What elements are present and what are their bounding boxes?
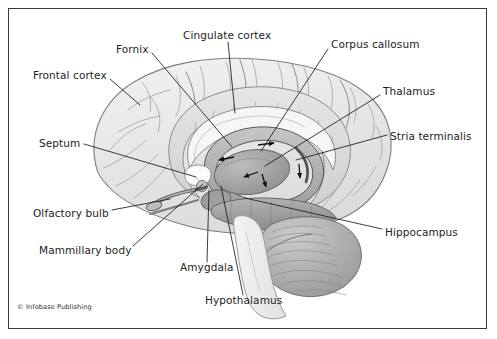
cerebellum-structure	[259, 217, 362, 297]
label-hypothalamus: Hypothalamus	[205, 295, 282, 306]
label-frontal-cortex: Frontal cortex	[33, 70, 107, 81]
limbic-system-figure: Frontal cortex Fornix Cingulate cortex C…	[0, 0, 497, 339]
label-septum: Septum	[39, 138, 80, 149]
copyright-credit: © Infobase Publishing	[17, 303, 92, 311]
label-olfactory-bulb: Olfactory bulb	[33, 208, 109, 219]
label-cingulate-cortex: Cingulate cortex	[183, 30, 271, 41]
label-mammillary-body: Mammillary body	[39, 245, 131, 256]
brain-illustration	[0, 0, 497, 339]
label-corpus-callosum: Corpus callosum	[331, 39, 420, 50]
label-hippocampus: Hippocampus	[385, 227, 458, 238]
label-thalamus: Thalamus	[383, 86, 435, 97]
label-amygdala: Amygdala	[180, 262, 234, 273]
label-fornix: Fornix	[116, 44, 149, 55]
label-stria-terminalis: Stria terminalis	[390, 131, 472, 142]
